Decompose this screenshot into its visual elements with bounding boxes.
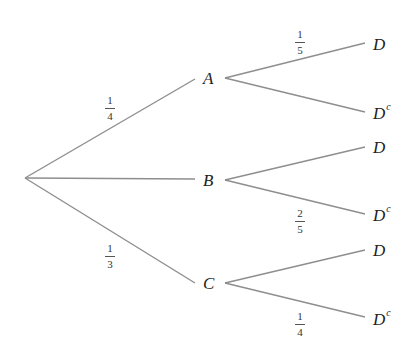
edge-root-B xyxy=(25,178,195,179)
node-C: C xyxy=(203,275,214,292)
leaf-A-Dc: Dc xyxy=(373,104,391,122)
prob-A: 1 4 xyxy=(104,95,116,122)
leaf-A-D: D xyxy=(373,36,385,53)
prob-C: 1 3 xyxy=(104,243,116,270)
prob-A-D: 1 5 xyxy=(294,29,306,56)
complement-sup: c xyxy=(386,101,390,112)
edge-B-D xyxy=(225,147,365,180)
edge-C-D xyxy=(225,250,365,283)
edge-A-Dc xyxy=(225,78,365,112)
node-A: A xyxy=(203,70,213,87)
leaf-C-D: D xyxy=(373,242,385,259)
complement-sup: c xyxy=(386,203,390,214)
prob-B-Dc: 2 5 xyxy=(294,208,306,235)
leaf-B-Dc: Dc xyxy=(373,206,391,224)
leaf-C-Dc: Dc xyxy=(373,310,391,328)
node-B: B xyxy=(203,172,213,189)
leaf-B-D: D xyxy=(373,139,385,156)
prob-C-Dc: 1 4 xyxy=(294,311,306,338)
complement-sup: c xyxy=(386,307,390,318)
